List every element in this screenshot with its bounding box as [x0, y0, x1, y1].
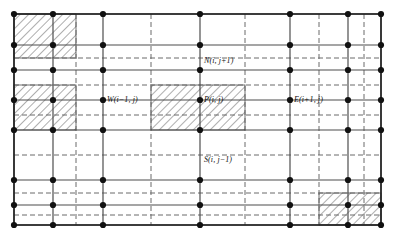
- grid-diagram-canvas: N(i, j+1)W(i−1, j)P(i, j)E(i+1, j)S(i, j…: [0, 0, 396, 235]
- grid-node-3-5: [197, 177, 203, 183]
- block-mid-left: [14, 85, 76, 130]
- grid-node-5-0: [345, 11, 351, 17]
- grid-node-1-5: [50, 177, 56, 183]
- grid-node-2-4: [100, 127, 106, 133]
- grid-node-4-6: [287, 202, 293, 208]
- label-west: W(i−1, j): [107, 96, 138, 104]
- grid-node-0-1: [11, 42, 17, 48]
- grid-node-6-0: [378, 11, 384, 17]
- grid-node-6-1: [378, 42, 384, 48]
- grid-node-4-3: [287, 97, 293, 103]
- grid-node-4-4: [287, 127, 293, 133]
- grid-node-3-6: [197, 202, 203, 208]
- grid-node-3-4: [197, 127, 203, 133]
- grid-node-0-2: [11, 67, 17, 73]
- grid-node-2-1: [100, 42, 106, 48]
- grid-node-5-7: [345, 222, 351, 228]
- grid-node-1-3: [50, 97, 56, 103]
- grid-node-3-1: [197, 42, 203, 48]
- grid-node-2-7: [100, 222, 106, 228]
- label-south: S(i, j−1): [204, 156, 232, 164]
- grid-node-4-2: [287, 67, 293, 73]
- grid-node-0-7: [11, 222, 17, 228]
- label-east: E(i+1, j): [294, 96, 323, 104]
- grid-node-1-0: [50, 11, 56, 17]
- grid-node-0-0: [11, 11, 17, 17]
- grid-node-1-1: [50, 42, 56, 48]
- grid-node-2-3: [100, 97, 106, 103]
- grid-node-4-7: [287, 222, 293, 228]
- grid-node-3-0: [197, 11, 203, 17]
- grid-node-4-1: [287, 42, 293, 48]
- grid-node-6-7: [378, 222, 384, 228]
- grid-node-3-7: [197, 222, 203, 228]
- grid-node-2-5: [100, 177, 106, 183]
- grid-node-5-3: [345, 97, 351, 103]
- grid-node-5-1: [345, 42, 351, 48]
- grid-node-1-2: [50, 67, 56, 73]
- block-bottom-right: [319, 193, 381, 225]
- grid-node-5-5: [345, 177, 351, 183]
- grid-node-2-0: [100, 11, 106, 17]
- grid-node-3-2: [197, 67, 203, 73]
- grid-node-4-0: [287, 11, 293, 17]
- grid-diagram-svg: [0, 0, 396, 235]
- grid-node-6-3: [378, 97, 384, 103]
- label-north: N(i, j+1): [204, 57, 233, 65]
- grid-node-6-4: [378, 127, 384, 133]
- grid-node-5-4: [345, 127, 351, 133]
- grid-node-0-4: [11, 127, 17, 133]
- grid-node-5-6: [345, 202, 351, 208]
- grid-node-1-4: [50, 127, 56, 133]
- grid-node-1-7: [50, 222, 56, 228]
- grid-node-6-2: [378, 67, 384, 73]
- grid-node-3-3: [197, 97, 203, 103]
- grid-node-4-5: [287, 177, 293, 183]
- grid-node-5-2: [345, 67, 351, 73]
- block-center-p: [151, 85, 245, 130]
- grid-node-0-5: [11, 177, 17, 183]
- grid-node-2-2: [100, 67, 106, 73]
- grid-node-0-6: [11, 202, 17, 208]
- block-top-left: [14, 14, 76, 58]
- grid-node-2-6: [100, 202, 106, 208]
- grid-node-0-3: [11, 97, 17, 103]
- label-p: P(i, j): [204, 96, 223, 104]
- grid-node-6-6: [378, 202, 384, 208]
- grid-node-1-6: [50, 202, 56, 208]
- grid-node-6-5: [378, 177, 384, 183]
